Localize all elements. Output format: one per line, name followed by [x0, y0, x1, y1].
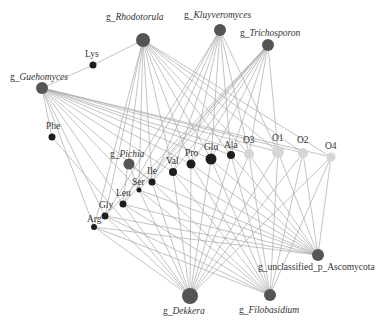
node-arg[interactable] — [91, 224, 97, 230]
node-label-prefix: g_ — [106, 12, 116, 22]
node-label-name: O1 — [272, 133, 284, 143]
node-label-name: O3 — [243, 135, 255, 145]
node-label-o3: O3 — [243, 135, 255, 145]
edge-dekkera-gly — [105, 216, 190, 296]
node-label-name: Kluyveromyces — [193, 10, 252, 20]
node-label-prefix: g_ — [10, 72, 20, 82]
node-label-name: Pro — [185, 148, 198, 158]
edge-filobasidium-ile — [152, 182, 270, 295]
node-label-name: Val — [166, 156, 179, 166]
node-label-ala: Ala — [224, 140, 239, 150]
node-glu[interactable] — [206, 154, 217, 165]
node-label-name: Phe — [46, 121, 60, 131]
node-label-name: O2 — [297, 135, 309, 145]
edge-guehomyces-val — [42, 88, 173, 172]
node-label-guehomyces: g_Guehomyces — [10, 72, 68, 82]
edge-ascomycota-ala — [231, 155, 318, 255]
node-label-name: Lys — [85, 49, 99, 59]
edge-filobasidium-o3 — [249, 154, 270, 295]
node-label-name: Filobasidium — [248, 305, 300, 315]
node-pro[interactable] — [187, 160, 196, 169]
edge-guehomyces-o4 — [42, 88, 331, 157]
node-label-phe: Phe — [46, 121, 60, 131]
node-pichia[interactable] — [124, 159, 135, 170]
edge-dekkera-o3 — [190, 154, 249, 296]
node-label-name: Dekkera — [172, 306, 205, 316]
node-label-prefix: g_ — [184, 10, 194, 20]
edge-dekkera-ile — [152, 182, 190, 296]
node-label-name: Ser — [132, 177, 146, 187]
node-trichosporon[interactable] — [262, 39, 274, 51]
node-label-name: Arg — [87, 214, 102, 224]
node-gly[interactable] — [102, 213, 109, 220]
node-label-arg: Arg — [87, 214, 102, 224]
node-label-name: O4 — [325, 141, 337, 151]
node-label-o1: O1 — [272, 133, 284, 143]
node-label-trichosporon: g_Trichosporon — [240, 28, 301, 38]
node-label-pro: Pro — [185, 148, 198, 158]
node-ser[interactable] — [137, 188, 142, 193]
node-label-name: Glu — [204, 142, 219, 152]
node-label-prefix: g_ — [240, 28, 250, 38]
node-label-o2: O2 — [297, 135, 309, 145]
node-ala[interactable] — [227, 151, 235, 159]
node-label-prefix: g_ — [258, 262, 268, 272]
edge-ascomycota-o2 — [303, 153, 318, 255]
edge-dekkera-pro — [190, 164, 191, 296]
edge-guehomyces-arg — [42, 88, 94, 227]
node-label-pichia: g_Pichia — [110, 149, 145, 159]
edge-layer — [42, 30, 331, 296]
node-label-ascomycota: g_unclassified_p_Ascomycota — [258, 262, 375, 272]
node-label-prefix: g_ — [110, 149, 120, 159]
node-label-name: Guehomyces — [20, 72, 69, 82]
node-phe[interactable] — [49, 134, 56, 141]
node-label-name: Ala — [224, 140, 239, 150]
node-label-name: Ile — [147, 166, 157, 176]
node-label-lys: Lys — [85, 49, 99, 59]
node-kluyveromyces[interactable] — [214, 24, 226, 36]
node-label-o4: O4 — [325, 141, 337, 151]
node-o1[interactable] — [272, 146, 284, 158]
node-label-name: unclassified_p_Ascomycota — [268, 262, 376, 272]
node-label-name: Pichia — [119, 149, 145, 159]
edge-dekkera-ala — [190, 155, 231, 296]
node-o2[interactable] — [298, 148, 308, 158]
node-label-ile: Ile — [147, 166, 157, 176]
node-label-name: Trichosporon — [250, 28, 301, 38]
node-o3[interactable] — [244, 149, 254, 159]
edge-rhodotorula-arg — [94, 40, 143, 227]
node-leu[interactable] — [120, 201, 127, 208]
node-rhodotorula[interactable] — [136, 33, 150, 47]
node-guehomyces[interactable] — [36, 82, 48, 94]
node-label-name: Rhodotorula — [115, 12, 164, 22]
node-label-name: Leu — [116, 188, 131, 198]
node-label-dekkera: g_Dekkera — [163, 306, 205, 316]
node-label-prefix: g_ — [163, 306, 173, 316]
node-label-rhodotorula: g_Rhodotorula — [106, 12, 164, 22]
node-o4[interactable] — [327, 153, 336, 162]
node-ile[interactable] — [149, 179, 156, 186]
node-val[interactable] — [169, 168, 177, 176]
node-label-gly: Gly — [99, 200, 114, 210]
edge-dekkera-leu — [123, 204, 190, 296]
node-filobasidium[interactable] — [264, 289, 276, 301]
edge-dekkera-o1 — [190, 152, 278, 296]
network-diagram: g_Rhodotorulag_Kluyveromycesg_Trichospor… — [0, 0, 388, 320]
node-label-glu: Glu — [204, 142, 219, 152]
edge-ascomycota-val — [173, 172, 318, 255]
node-label-ser: Ser — [132, 177, 146, 187]
node-lys[interactable] — [90, 62, 97, 69]
node-label-val: Val — [166, 156, 179, 166]
node-label-kluyveromyces: g_Kluyveromyces — [184, 10, 251, 20]
node-ascomycota[interactable] — [312, 249, 324, 261]
node-label-filobasidium: g_Filobasidium — [239, 305, 299, 315]
node-label-leu: Leu — [116, 188, 131, 198]
node-dekkera[interactable] — [182, 288, 198, 304]
node-label-name: Gly — [99, 200, 114, 210]
node-label-prefix: g_ — [239, 305, 249, 315]
edge-rhodotorula-lys — [93, 40, 143, 65]
edge-dekkera-o4 — [190, 157, 331, 296]
edge-filobasidium-gly — [105, 216, 270, 295]
